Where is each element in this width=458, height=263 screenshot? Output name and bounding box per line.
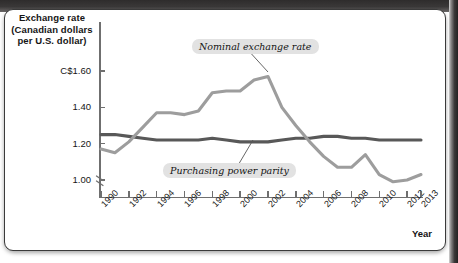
callout-purchasing-power-parity: Purchasing power parity — [163, 163, 296, 178]
callout-nominal-exchange-rate: Nominal exchange rate — [192, 39, 319, 54]
figure-container: Exchange rate (Canadian dollars per U.S.… — [0, 0, 458, 263]
ppp-line — [101, 135, 421, 142]
plot-area: C$1.601.401.201.00 199019921994199619982… — [0, 0, 458, 263]
x-axis-title: Year — [412, 228, 432, 239]
